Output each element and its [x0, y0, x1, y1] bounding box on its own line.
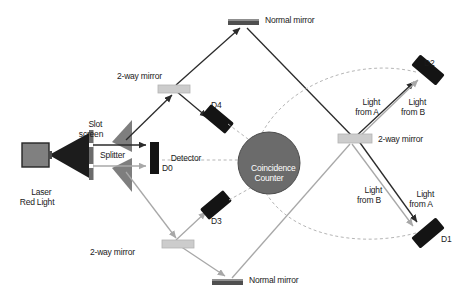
splitter-label: Splitter [99, 150, 126, 161]
beam-two-way-mirror-bottom-left-to-normal-mirror-bottom [180, 246, 225, 276]
beam-normal-mirror-top-to-two-way-mirror-right [247, 28, 352, 136]
beam-two-way-mirror-top-left-to-d4 [176, 91, 207, 117]
quantum-eraser-diagram: Laser Red Light Slot screen Splitter Det… [0, 0, 468, 304]
detector-d4-label: D4 [211, 100, 221, 111]
beam-two-way-mirror-bottom-left-to-d3 [176, 212, 206, 240]
detector-d1-label: D1 [441, 234, 451, 245]
normal-mirror-top [228, 19, 259, 25]
laser-source [22, 143, 52, 167]
two-way-mirror-right [338, 134, 372, 143]
beam-a-to-two-way-mirror-top-left [126, 95, 172, 140]
detector-d0-label: Detector D0 [162, 142, 201, 184]
two-way-mirror-right-label: 2-way mirror [378, 134, 423, 145]
detector-d0 [150, 142, 159, 174]
laser-label: Laser Red Light [6, 176, 68, 218]
light-from-b-upper-label: Light from B [394, 86, 432, 128]
normal-mirror-top-label: Normal mirror [265, 15, 314, 26]
normal-mirror-bottom [212, 279, 243, 285]
coincidence-counter-label: Coincidence Counter [239, 152, 299, 194]
two-way-mirror-bottom-left-label: 2-way mirror [90, 247, 135, 258]
detector-d2-label: D2 [424, 58, 434, 69]
two-way-mirror-top-left-label: 2-way mirror [117, 71, 162, 82]
two-way-mirror-bottom-left [162, 240, 194, 248]
diagram-canvas [0, 0, 468, 304]
two-way-mirror-top-left [158, 85, 190, 93]
detector-d3-label: D3 [211, 216, 221, 227]
light-from-a-upper-label: Light from A [348, 86, 386, 128]
normal-mirror-bottom-label: Normal mirror [249, 275, 298, 286]
light-from-b-lower-label: Light from B [350, 174, 388, 216]
slot-screen-label: Slot screen [62, 108, 120, 150]
beam-two-way-mirror-top-left-to-normal-mirror-top [176, 28, 240, 85]
light-from-a-lower-label: Light from A [402, 178, 440, 220]
